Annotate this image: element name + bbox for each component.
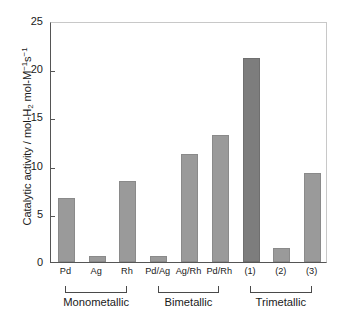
y-tick-label: 25: [3, 16, 43, 27]
bar-pd-rh[interactable]: [212, 135, 229, 262]
bar-3[interactable]: [304, 173, 321, 262]
bar-pd[interactable]: [58, 198, 75, 262]
y-axis-title-mid2: s: [21, 56, 33, 62]
y-axis-title-sup-s: −1: [20, 47, 29, 56]
y-tick-label: 5: [3, 209, 43, 220]
x-tick-label: (3): [285, 267, 339, 276]
y-axis-title-mid: mol-M: [21, 71, 33, 105]
y-tick-label: 0: [3, 257, 43, 268]
y-tick-mark: [51, 71, 55, 72]
plot-area: [50, 22, 327, 263]
y-tick-mark: [51, 216, 55, 217]
bar-ag[interactable]: [89, 256, 106, 262]
y-tick-mark: [51, 119, 55, 120]
group-bracket: [65, 286, 127, 293]
bar-1[interactable]: [243, 58, 260, 262]
y-tick-label: 10: [3, 161, 43, 172]
group-bracket: [158, 286, 220, 293]
y-tick-label: 15: [3, 112, 43, 123]
bar-rh[interactable]: [119, 181, 136, 262]
y-tick-mark: [51, 168, 55, 169]
y-axis-title: Catalytic activity / mol-H2 mol-M−1s−1: [20, 12, 35, 262]
bar-2[interactable]: [273, 248, 290, 262]
y-axis-title-sub-h2: 2: [26, 104, 35, 108]
bar-ag-rh[interactable]: [181, 154, 198, 262]
group-label: Trimetallic: [210, 297, 339, 308]
group-bracket: [250, 286, 312, 293]
bar-pd-ag[interactable]: [150, 256, 167, 262]
y-tick-label: 20: [3, 64, 43, 75]
bar-chart-figure: Catalytic activity / mol-H2 mol-M−1s−1 0…: [0, 0, 339, 323]
